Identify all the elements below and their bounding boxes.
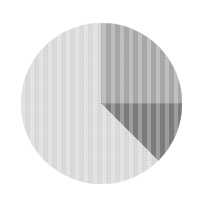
pie-chart-svg xyxy=(21,23,182,184)
pie-slice-2[interactable] xyxy=(102,23,183,104)
pie-slices-group xyxy=(21,23,182,184)
pie-chart-plot-area xyxy=(21,23,182,184)
pie-chart-figure xyxy=(0,0,205,205)
